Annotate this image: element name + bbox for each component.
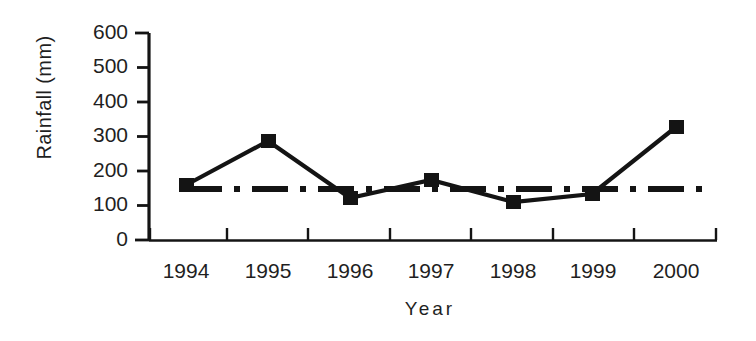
xtick-label-1995: 1995 [230,259,306,283]
ytick-label-100: 100 [58,192,128,216]
y-axis-ticks [135,33,149,240]
data-point-1998 [506,195,521,209]
data-point-1997 [424,173,439,187]
data-point-1996 [343,191,358,205]
ytick-label-600: 600 [58,20,128,44]
xtick-label-1994: 1994 [148,259,224,283]
x-axis-ticks [150,228,716,240]
ytick-label-0: 0 [58,227,128,251]
ytick-label-500: 500 [58,54,128,78]
xtick-label-1996: 1996 [312,259,388,283]
ytick-label-400: 400 [58,89,128,113]
xtick-label-1999: 1999 [555,259,631,283]
data-point-2000 [669,120,684,134]
rainfall-line-chart: 600 500 400 300 200 100 0 1994 1995 1996… [0,0,756,341]
xtick-label-2000: 2000 [638,259,714,283]
ytick-label-200: 200 [58,158,128,182]
ytick-label-300: 300 [58,123,128,147]
xtick-label-1997: 1997 [393,259,469,283]
rainfall-series-markers [179,120,684,209]
data-point-1999 [585,187,600,201]
data-point-1994 [179,178,194,192]
data-point-1995 [261,134,276,148]
x-axis-title: Year [330,298,530,320]
y-axis-title: Rainfall (mm) [33,0,56,198]
xtick-label-1998: 1998 [475,259,551,283]
